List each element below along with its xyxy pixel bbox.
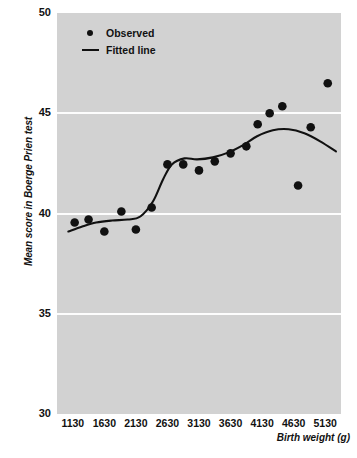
observed-point bbox=[210, 157, 219, 166]
observed-point bbox=[195, 166, 204, 175]
fitted-line-marker-icon bbox=[77, 49, 103, 51]
fitted-line-path bbox=[68, 129, 336, 231]
legend-label-fitted-line: Fitted line bbox=[103, 44, 156, 56]
observed-point bbox=[84, 215, 93, 224]
data-layer bbox=[57, 13, 341, 414]
observed-point bbox=[242, 142, 251, 151]
x-tick-5130: 5130 bbox=[303, 417, 347, 429]
observed-point bbox=[179, 160, 188, 169]
plot-area: Observed Fitted line bbox=[57, 13, 341, 414]
y-tick-35: 35 bbox=[5, 307, 51, 319]
y-tick-40: 40 bbox=[5, 207, 51, 219]
observed-point bbox=[278, 102, 287, 111]
chart-figure: Mean score in Boerge Prien test Birth we… bbox=[0, 0, 357, 458]
observed-point bbox=[226, 149, 235, 158]
observed-point bbox=[132, 225, 141, 234]
observed-point bbox=[265, 109, 274, 118]
observed-point bbox=[117, 207, 126, 216]
observed-point bbox=[100, 227, 109, 236]
chart-legend: Observed Fitted line bbox=[77, 25, 156, 59]
observed-point bbox=[70, 218, 79, 227]
observed-point bbox=[163, 160, 172, 169]
legend-label-observed: Observed bbox=[103, 27, 154, 39]
legend-item-observed: Observed bbox=[77, 25, 156, 40]
observed-marker-icon bbox=[77, 30, 103, 36]
y-tick-45: 45 bbox=[5, 106, 51, 118]
x-axis-title: Birth weight (g) bbox=[200, 432, 350, 443]
observed-points-group bbox=[70, 79, 332, 236]
observed-point bbox=[323, 79, 332, 88]
legend-item-fitted-line: Fitted line bbox=[77, 42, 156, 57]
observed-point bbox=[253, 120, 262, 129]
y-tick-50: 50 bbox=[5, 6, 51, 18]
observed-point bbox=[294, 181, 303, 190]
observed-point bbox=[306, 123, 315, 132]
observed-point bbox=[147, 203, 156, 212]
y-tick-30: 30 bbox=[5, 407, 51, 419]
